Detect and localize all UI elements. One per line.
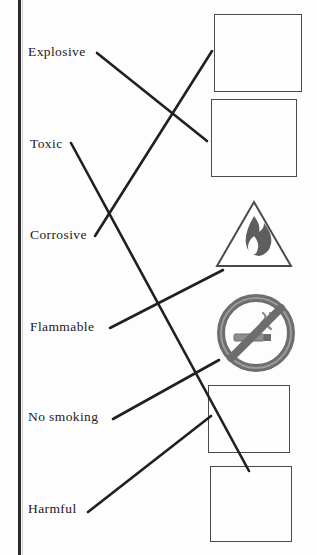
connector-lines [0,0,317,555]
worksheet-page: Explosive Toxic Corrosive Flammable No s… [0,0,317,555]
connector-no-smoking[interactable] [113,360,219,419]
connector-toxic[interactable] [71,143,249,471]
connector-harmful[interactable] [88,416,211,512]
connector-explosive[interactable] [97,53,207,141]
connector-corrosive[interactable] [95,51,212,236]
